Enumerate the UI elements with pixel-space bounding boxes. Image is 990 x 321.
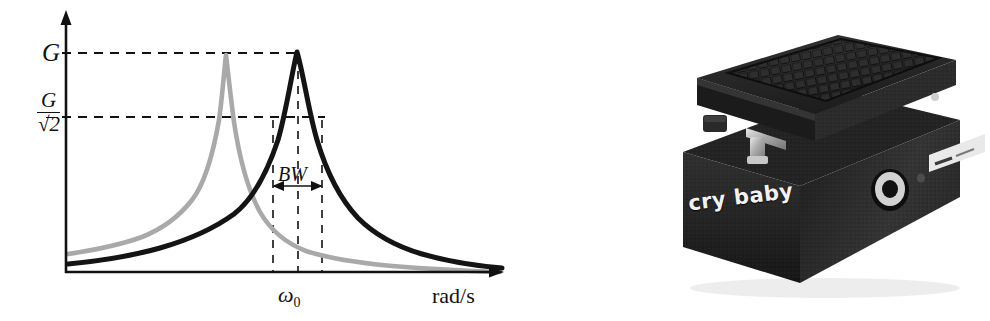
treadle-screw xyxy=(931,93,939,101)
x-tick-label-omega0: ω0 xyxy=(278,282,301,311)
y-axis xyxy=(61,10,72,273)
side-bolt-icon xyxy=(703,115,727,132)
radicand: 2 xyxy=(50,112,61,136)
curve-black-resonance xyxy=(68,52,502,268)
chart-canvas xyxy=(0,0,540,321)
x-axis-unit-label: rad/s xyxy=(432,283,475,309)
pedal-canvas xyxy=(600,0,990,321)
figure-root: G G √2 ω0 rad/s BW xyxy=(0,0,990,321)
bandwidth-label: BW xyxy=(278,163,307,186)
bandwidth-chart: G G √2 ω0 rad/s BW xyxy=(0,0,540,321)
input-jack[interactable] xyxy=(871,169,909,211)
fraction-numerator: G xyxy=(37,90,60,113)
fraction-denominator: √2 xyxy=(37,113,60,135)
wah-pedal-photo: cry baby xyxy=(600,0,990,321)
y-tick-label-G-over-root2: G √2 xyxy=(8,90,60,135)
radical-icon: √ xyxy=(37,114,50,135)
y-tick-label-G: G xyxy=(20,40,60,65)
indicator-dot xyxy=(917,174,925,183)
pedal-shadow xyxy=(690,278,960,298)
